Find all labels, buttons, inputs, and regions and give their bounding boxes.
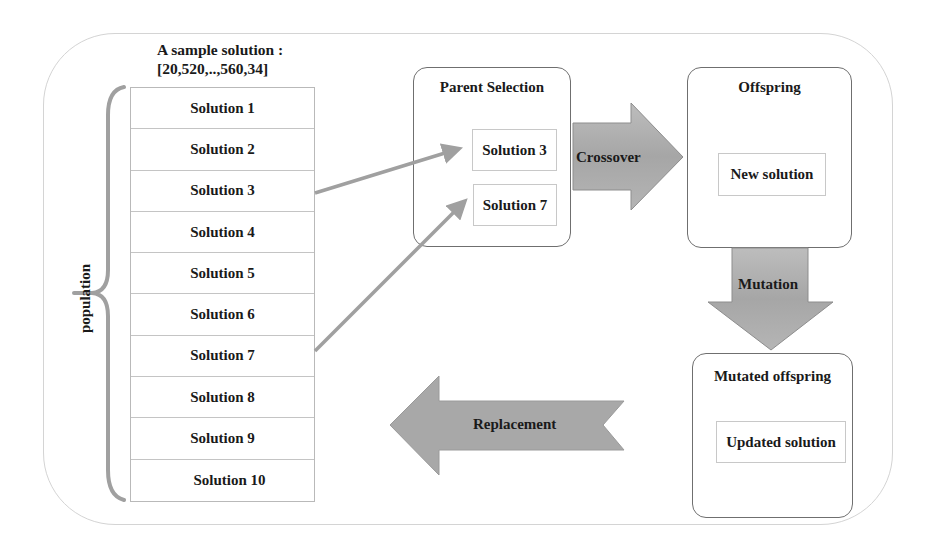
replacement-arrow-icon	[0, 0, 930, 546]
replacement-label: Replacement	[473, 416, 556, 433]
